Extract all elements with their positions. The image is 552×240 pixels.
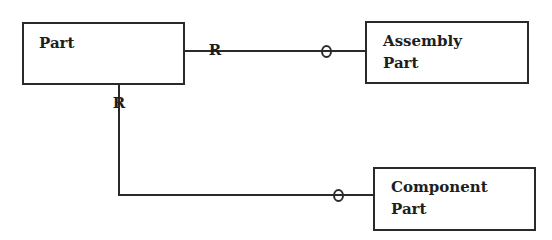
- required-marker-part-component: R: [112, 96, 126, 111]
- entity-part-label: Part: [39, 33, 74, 54]
- optional-marker-assembly-bar: [319, 50, 334, 52]
- entity-assembly-part[interactable]: Assembly Part: [365, 21, 529, 84]
- entity-component-part[interactable]: Component Part: [373, 167, 536, 231]
- entity-part[interactable]: Part: [22, 22, 185, 85]
- er-diagram: Part Assembly Part Component Part R R: [0, 0, 552, 240]
- entity-assembly-part-label-line2: Part: [383, 53, 418, 74]
- entity-assembly-part-label-line1: Assembly: [383, 31, 462, 52]
- required-marker-part-assembly: R: [208, 43, 222, 58]
- optional-marker-component-bar: [331, 194, 346, 196]
- entity-component-part-label-line2: Part: [391, 199, 426, 220]
- entity-component-part-label-line1: Component: [391, 177, 488, 198]
